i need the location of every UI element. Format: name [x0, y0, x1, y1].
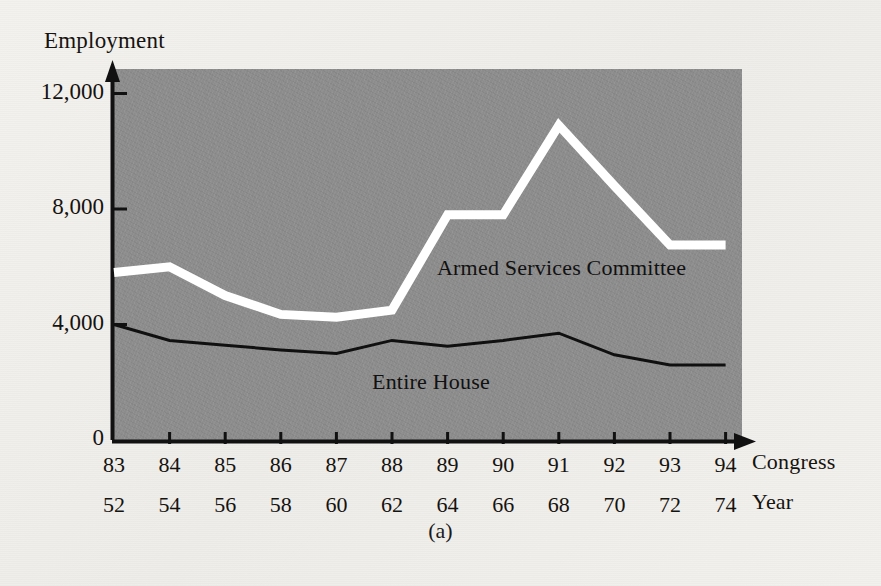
series-line-entire-house [114, 325, 726, 365]
x-axis-arrowhead [734, 433, 756, 450]
x-axis-year-label: 64 [423, 492, 473, 518]
x-axis-year-label: 66 [478, 492, 528, 518]
x-axis-year-label: 74 [701, 492, 751, 518]
x-axis-title-congress: Congress [752, 449, 836, 475]
x-axis-congress-label: 86 [256, 452, 306, 478]
x-axis-year-label: 62 [367, 492, 417, 518]
x-axis-congress-label: 85 [200, 452, 250, 478]
x-axis-year-label: 52 [89, 492, 139, 518]
x-axis-year-label: 56 [200, 492, 250, 518]
x-axis-title-year: Year [752, 489, 793, 515]
series-line-armed-services-committee [114, 125, 726, 317]
x-axis-year-label: 54 [145, 492, 195, 518]
x-axis-congress-label: 92 [589, 452, 639, 478]
y-axis-tick-label: 8,000 [52, 194, 104, 220]
data-series-group [114, 125, 726, 365]
y-axis-arrowhead [105, 60, 120, 82]
x-axis-congress-label: 84 [145, 452, 195, 478]
x-axis-congress-label: 91 [534, 452, 584, 478]
x-axis-year-label: 58 [256, 492, 306, 518]
y-axis-tick-label: 12,000 [41, 79, 104, 105]
x-axis-congress-label: 83 [89, 452, 139, 478]
x-axis-congress-label: 88 [367, 452, 417, 478]
x-axis-congress-label: 87 [311, 452, 361, 478]
x-axis-congress-label: 89 [423, 452, 473, 478]
x-axis-year-label: 68 [534, 492, 584, 518]
x-axis-congress-label: 93 [645, 452, 695, 478]
y-axis-tick-label: 0 [93, 425, 105, 451]
x-axis-congress-label: 94 [701, 452, 751, 478]
chart-figure: Employment 04,0008,00012,000 83848586878… [0, 0, 881, 586]
x-axis-year-label: 70 [589, 492, 639, 518]
x-axis-year-label: 72 [645, 492, 695, 518]
x-axis-year-label: 60 [311, 492, 361, 518]
y-axis-tick-label: 4,000 [52, 310, 104, 336]
series-label-entire-house: Entire House [372, 369, 490, 395]
series-label-armed-services-committee: Armed Services Committee [437, 255, 686, 281]
figure-caption: (a) [0, 518, 881, 544]
x-axis-congress-label: 90 [478, 452, 528, 478]
